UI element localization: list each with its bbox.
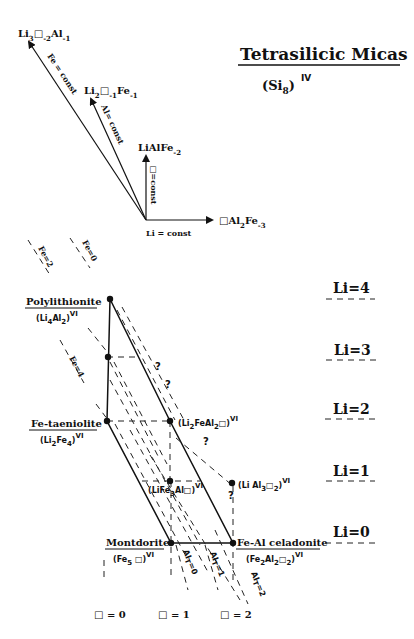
point-li3: [105, 354, 111, 360]
lial3-formula: (Li Al3□2)VI: [238, 477, 290, 493]
fe-4-label: Fe=4: [67, 354, 87, 379]
fe-al-celadonite-name: Fe-Al celadonite: [237, 537, 328, 548]
diagram-title: Tetrasilicic Micas: [240, 44, 408, 64]
question-mark-4: ?: [228, 490, 234, 501]
montdorite-formula: (Fe5 □)VI: [113, 551, 154, 567]
li-1-label: Li=1: [333, 463, 370, 479]
vector-label-li3: Li3□-2Al-1: [18, 28, 70, 43]
fe-al-celadonite-formula: (Fe2Al2□2)VI: [246, 551, 303, 567]
composition-field: ? ? ? ?: [88, 296, 248, 604]
li-const-label: Li = const: [146, 228, 191, 238]
montdorite-name: Montdorite: [106, 537, 169, 548]
question-mark-1: ?: [155, 361, 161, 372]
question-mark-3: ?: [203, 436, 209, 447]
li-levels: Li=4 Li=3 Li=2 Li=1 Li=0: [325, 280, 377, 543]
fe-2-label: Fe=2: [36, 244, 55, 269]
title-block: Tetrasilicic Micas (Si8)IV: [238, 44, 408, 96]
mineral-labels: Polylithionite (Li4Al2)VI Fe-taeniolite …: [25, 296, 328, 567]
vacancy-1-label: □ = 1: [158, 609, 190, 620]
vector-label-li2: Li2□-1Fe-1: [84, 85, 138, 100]
al-t-2-label: AlT=2: [247, 570, 267, 598]
li-2-label: Li=2: [333, 401, 370, 417]
vacancy-const-label: □=const: [149, 166, 159, 205]
polylithionite-formula: (Li4Al2)VI: [36, 310, 78, 326]
fe-0-label: Fe=0: [80, 238, 100, 263]
exchange-vector-diagram: Li3□-2Al-1 Li2□-1Fe-1 LiAlFe-2 □Al2Fe-3 …: [18, 28, 266, 238]
al-t-1-label: AlT=1: [206, 550, 226, 579]
point-lial3: [229, 480, 235, 486]
question-mark-2: ?: [165, 379, 171, 390]
polylithionite-name: Polylithionite: [26, 296, 102, 307]
point-polylithionite: [107, 296, 113, 302]
vacancy-2-label: □ = 2: [220, 609, 252, 620]
vector-label-al2fe: □Al2Fe-3: [219, 215, 266, 230]
title-subtitle: (Si8)IV: [262, 73, 311, 96]
mica-diagram: Tetrasilicic Micas (Si8)IV Li3□-2Al-1 Li…: [0, 0, 414, 639]
vector-label-lialfe: LiAlFe-2: [138, 142, 181, 157]
al-t-0-label: AlT=0: [179, 548, 199, 577]
fe-taeniolite-formula: (Li2Fe4)VI: [40, 432, 84, 448]
point-fe-taeniolite: [104, 418, 110, 424]
fe-isolines: Fe=2 Fe=0 Fe=4: [28, 238, 100, 383]
point-fe-al-celadonite: [230, 540, 236, 546]
vacancy-0-label: □ = 0: [94, 609, 126, 620]
fe-taeniolite-name: Fe-taeniolite: [31, 418, 102, 429]
vector-al-const: [91, 99, 146, 220]
li-0-label: Li=0: [333, 524, 370, 540]
point-life3al: [167, 478, 173, 484]
li-4-label: Li=4: [333, 280, 370, 296]
li2feal2-formula: (Li2FeAl2□)VI: [178, 415, 238, 431]
point-li2feal2: [167, 418, 173, 424]
vector-fe-const: [29, 42, 146, 220]
vacancy-labels: □ = 0 □ = 1 □ = 2: [94, 609, 252, 620]
li-3-label: Li=3: [334, 342, 371, 358]
